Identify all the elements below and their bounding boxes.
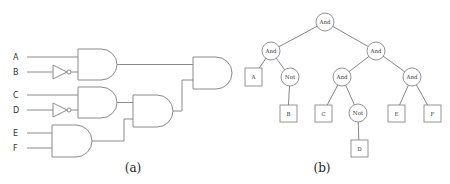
tree-leaf-f: F [424, 105, 441, 122]
wire-and4-to-and5 [173, 80, 193, 111]
tree-leaf-e: E [388, 105, 405, 122]
svg-text:C: C [321, 111, 325, 117]
tree-node-right-and: And [367, 42, 385, 60]
svg-text:B: B [286, 111, 290, 117]
svg-text:E: E [394, 111, 398, 117]
not-gate-d-icon [53, 103, 71, 117]
input-label-c: C [13, 91, 19, 100]
input-label-a: A [13, 53, 19, 62]
svg-text:And: And [264, 48, 277, 54]
and-gate-3-icon [52, 125, 92, 157]
wire-and3-to-and4 [92, 119, 133, 141]
and-gate-1-icon [78, 49, 117, 80]
svg-text:And: And [369, 48, 382, 54]
input-label-b: B [13, 68, 19, 77]
svg-text:And: And [335, 74, 348, 80]
caption-b: (b) [313, 161, 330, 175]
and-gate-5-icon [193, 57, 232, 89]
input-label-f: F [13, 144, 18, 153]
tree-node-not-d: Not [349, 104, 367, 122]
input-label-e: E [13, 129, 18, 138]
tree-node-and-cd: And [333, 68, 351, 86]
tree-leaf-b: B [280, 105, 297, 122]
tree-node-and-ef: And [403, 68, 421, 86]
tree-leaf-d: D [351, 140, 368, 157]
not-gate-b-icon [53, 65, 71, 79]
input-label-d: D [13, 106, 19, 115]
figure: A B C D E F [0, 0, 450, 184]
svg-text:Not: Not [285, 74, 296, 80]
and-gate-2-icon [78, 87, 117, 118]
and-gate-4-icon [133, 95, 173, 127]
logic-circuit: A B C D E F [13, 49, 232, 175]
tree-node-not-b: Not [281, 68, 299, 86]
tree-leaf-c: C [315, 105, 332, 122]
svg-text:And: And [318, 19, 331, 25]
caption-a: (a) [125, 161, 142, 175]
svg-text:And: And [405, 74, 418, 80]
svg-text:Not: Not [353, 110, 364, 116]
expression-tree: And And And Not And And Not A [245, 13, 441, 175]
tree-node-root: And [316, 13, 334, 31]
tree-leaf-a: A [245, 68, 262, 86]
svg-text:F: F [431, 111, 435, 117]
svg-text:D: D [357, 146, 362, 152]
tree-node-left-and: And [262, 42, 280, 60]
